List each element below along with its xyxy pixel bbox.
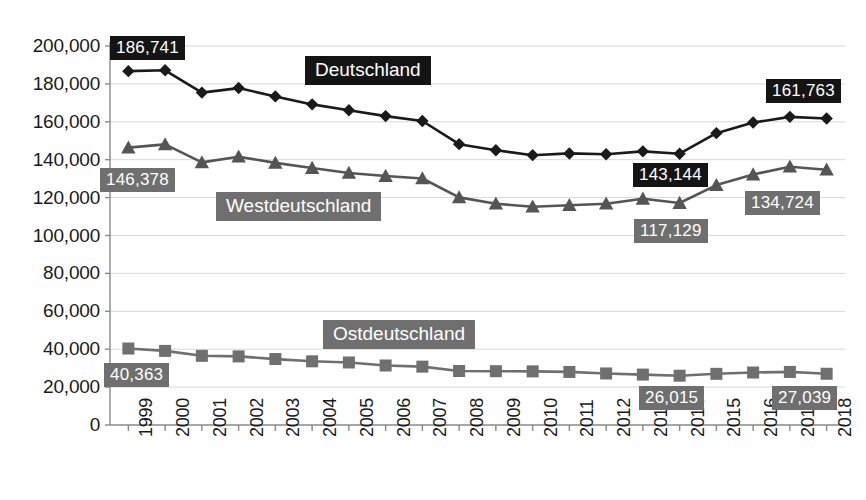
data-point-marker-diamond [196, 86, 208, 98]
data-point-marker-diamond [269, 90, 281, 102]
y-axis-tick-label: 100,000 [0, 225, 100, 247]
data-point-marker-square [416, 361, 428, 373]
data-point-label: 117,129 [634, 219, 708, 243]
x-axis-tick-label: 2018 [835, 398, 856, 437]
data-point-label: 143,144 [633, 163, 708, 187]
data-point-marker-diamond [710, 127, 722, 139]
data-point-marker-square [710, 368, 722, 380]
x-axis-tick-label: 2015 [724, 398, 745, 437]
data-point-marker-diamond [600, 148, 612, 160]
data-point-marker-triangle [231, 149, 245, 162]
data-point-marker-square [490, 365, 502, 377]
data-point-label: 161,763 [766, 79, 841, 103]
line-chart: 200,000180,000160,000140,000120,000100,0… [0, 0, 866, 500]
x-axis-tick-label: 2000 [173, 398, 194, 437]
data-point-marker-square [563, 366, 575, 378]
data-point-marker-square [380, 359, 392, 371]
x-axis-tick-label: 2006 [394, 398, 415, 437]
data-point-marker-square [821, 368, 833, 380]
x-axis-tick-label: 2011 [577, 399, 598, 437]
x-axis-tick-label: 2001 [210, 398, 231, 437]
data-point-marker-square [747, 367, 759, 379]
data-point-label: 186,741 [110, 36, 185, 60]
data-point-marker-diamond [416, 115, 428, 127]
data-point-marker-square [453, 365, 465, 377]
data-point-marker-square [527, 365, 539, 377]
data-point-marker-diamond [122, 65, 134, 77]
data-point-marker-diamond [159, 64, 171, 76]
data-point-marker-square [637, 369, 649, 381]
data-point-marker-diamond [343, 104, 355, 116]
data-point-label: 27,039 [772, 386, 837, 410]
x-axis-tick-label: 1999 [136, 398, 157, 437]
y-axis-tick-label: 0 [0, 414, 100, 436]
x-axis-tick-label: 2010 [541, 398, 562, 437]
data-point-marker-diamond [306, 98, 318, 110]
data-point-marker-square [233, 350, 245, 362]
x-axis-tick-label: 2003 [283, 398, 304, 437]
axis-lines [105, 42, 845, 425]
data-point-label: 146,378 [100, 168, 175, 192]
data-point-marker-square [600, 367, 612, 379]
y-axis-tick-label: 140,000 [0, 149, 100, 171]
y-axis-tick-label: 160,000 [0, 111, 100, 133]
data-point-marker-triangle [452, 190, 466, 203]
series-line-deutschland [128, 70, 826, 155]
x-axis-tick-label: 2002 [247, 398, 268, 437]
y-axis-tick-label: 180,000 [0, 73, 100, 95]
y-axis-tick-label: 40,000 [0, 338, 100, 360]
x-axis-tick-label: 2005 [357, 398, 378, 437]
x-axis-tick-label: 2008 [467, 398, 488, 437]
y-axis-tick-label: 60,000 [0, 300, 100, 322]
data-point-marker-square [784, 366, 796, 378]
data-point-marker-diamond [747, 116, 759, 128]
data-point-label: 40,363 [104, 363, 169, 387]
data-point-marker-square [196, 350, 208, 362]
y-axis-tick-label: 200,000 [0, 35, 100, 57]
x-axis-tick-label: 2007 [430, 398, 451, 437]
y-axis-tick-label: 20,000 [0, 376, 100, 398]
data-point-marker-square [674, 370, 686, 382]
series-label-westdeutschland: Westdeutschland [216, 192, 381, 221]
data-point-marker-diamond [820, 112, 832, 124]
x-axis-tick-label: 2004 [320, 398, 341, 437]
data-point-marker-diamond [673, 148, 685, 160]
x-axis-tick-label: 2012 [614, 398, 635, 437]
data-point-marker-square [159, 345, 171, 357]
x-axis-tick-label: 2009 [504, 398, 525, 437]
data-point-marker-square [269, 353, 281, 365]
data-point-marker-diamond [563, 147, 575, 159]
data-point-marker-square [306, 355, 318, 367]
data-point-marker-diamond [784, 111, 796, 123]
data-point-marker-diamond [490, 144, 502, 156]
data-point-marker-diamond [379, 110, 391, 122]
data-point-label: 26,015 [639, 386, 704, 410]
data-point-label: 134,724 [745, 191, 820, 215]
series-label-deutschland: Deutschland [305, 56, 431, 85]
data-point-marker-diamond [637, 145, 649, 157]
data-point-marker-square [343, 356, 355, 368]
series-layer [121, 64, 834, 382]
data-point-marker-diamond [453, 138, 465, 150]
data-point-marker-square [122, 343, 134, 355]
y-axis-tick-label: 80,000 [0, 262, 100, 284]
series-label-ostdeutschland: Ostdeutschland [323, 320, 475, 349]
y-axis-tick-label: 120,000 [0, 187, 100, 209]
